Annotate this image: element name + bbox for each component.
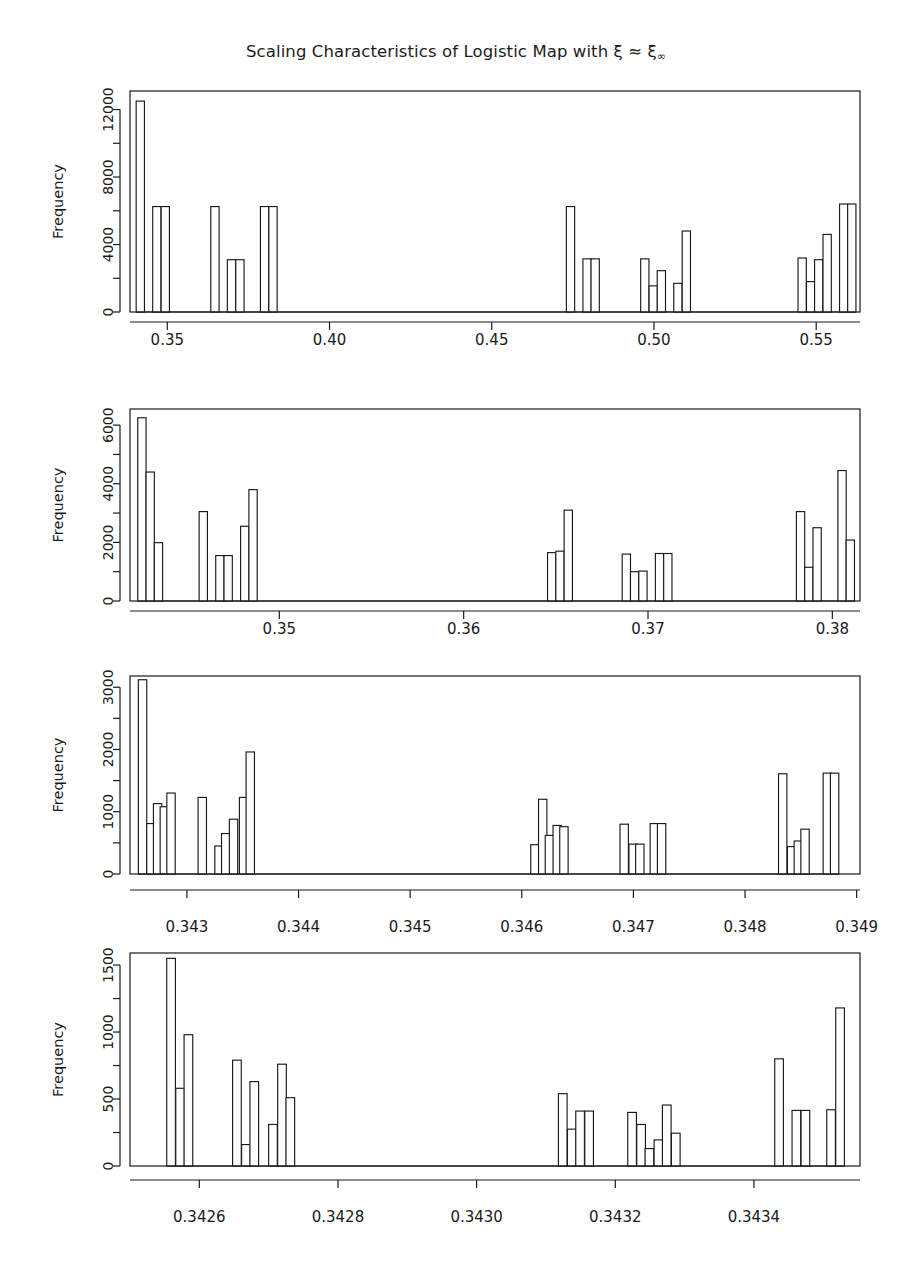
histogram-bar xyxy=(830,773,838,874)
histogram-bar xyxy=(553,825,561,874)
y-axis-tick-label: 12000 xyxy=(100,87,116,132)
panel-plot-svg-3: 01000200030000.3430.3440.3450.3460.3470.… xyxy=(0,0,912,954)
x-axis-tick-label: 0.347 xyxy=(612,918,655,936)
y-axis-tick-label: 0 xyxy=(100,1162,116,1171)
x-axis-tick-label: 0.343 xyxy=(165,918,208,936)
histogram-bar xyxy=(229,819,237,874)
histogram-bar xyxy=(775,1059,784,1166)
y-axis-tick-label: 500 xyxy=(100,1086,116,1113)
histogram-bar xyxy=(641,259,649,312)
histogram-bar xyxy=(260,207,268,312)
histogram-bar xyxy=(840,204,848,312)
histogram-bar xyxy=(239,797,247,874)
histogram-bar xyxy=(657,824,665,874)
x-axis-tick-label: 0.55 xyxy=(799,331,832,349)
panel-plot-svg-2: 02000400060000.350.360.370.38Frequency xyxy=(0,0,912,656)
histogram-bar xyxy=(558,1094,567,1166)
histogram-bar xyxy=(236,260,244,312)
histogram-bar xyxy=(630,572,638,601)
histogram-bar xyxy=(224,556,232,601)
plot-box xyxy=(130,409,860,601)
y-axis-tick-label: 4000 xyxy=(100,227,116,263)
x-axis-tick-label: 0.3432 xyxy=(589,1208,642,1226)
histogram-bar xyxy=(629,844,637,874)
histogram-bar xyxy=(153,207,161,312)
x-axis-tick-label: 0.36 xyxy=(447,620,480,638)
y-axis-tick-label: 1500 xyxy=(100,947,116,983)
x-axis-tick-label: 0.349 xyxy=(835,918,878,936)
y-axis-title: Frequency xyxy=(50,737,66,812)
histogram-bar xyxy=(250,1082,259,1166)
histogram-bar xyxy=(796,512,804,601)
x-axis-tick-label: 0.40 xyxy=(313,331,346,349)
histogram-bars xyxy=(138,680,838,874)
histogram-bar xyxy=(637,1124,646,1166)
histogram-bar xyxy=(620,824,628,874)
histogram-bar xyxy=(241,526,249,601)
histogram-bar xyxy=(227,260,235,312)
histogram-bar xyxy=(556,551,564,601)
histogram-bar xyxy=(249,490,257,601)
y-axis-tick-label: 6000 xyxy=(100,407,116,443)
figure-title-subscript: ∞ xyxy=(657,50,666,63)
histogram-bar xyxy=(154,543,162,601)
histogram-bar xyxy=(650,824,658,874)
histogram-bar xyxy=(198,797,206,874)
histogram-bar xyxy=(645,1149,654,1166)
histogram-bar xyxy=(545,835,553,874)
histogram-bar xyxy=(787,847,795,874)
x-axis-tick-label: 0.345 xyxy=(389,918,432,936)
histogram-bar xyxy=(138,680,146,874)
histogram-bar xyxy=(548,553,556,601)
x-axis-tick-label: 0.3428 xyxy=(312,1208,365,1226)
histogram-bar xyxy=(806,282,814,312)
histogram-bar xyxy=(211,207,219,312)
histogram-bars xyxy=(167,958,845,1166)
histogram-bar xyxy=(222,834,230,874)
histogram-bar xyxy=(242,1145,251,1166)
panel-plot-svg-4: 0500100015000.34260.34280.34300.34320.34… xyxy=(0,0,912,1244)
histogram-bar xyxy=(138,418,146,601)
histogram-bar xyxy=(216,556,224,601)
x-axis-tick-label: 0.3430 xyxy=(450,1208,503,1226)
y-axis-tick-label: 0 xyxy=(100,597,116,606)
histogram-bar xyxy=(136,101,144,312)
y-axis-title: Frequency xyxy=(50,164,66,239)
x-axis-tick-label: 0.50 xyxy=(637,331,670,349)
histogram-bar xyxy=(657,271,665,312)
histogram-bar xyxy=(798,258,806,312)
histogram-bar xyxy=(779,774,787,874)
x-axis-tick-label: 0.35 xyxy=(263,620,296,638)
histogram-bar xyxy=(246,752,254,874)
histogram-bar xyxy=(671,1133,680,1166)
y-axis-tick-label: 1000 xyxy=(100,1014,116,1050)
histogram-bar xyxy=(576,1111,585,1166)
histogram-bar xyxy=(583,259,591,312)
x-axis-tick-label: 0.35 xyxy=(151,331,184,349)
histogram-bar xyxy=(622,554,630,601)
histogram-bar xyxy=(655,554,663,601)
histogram-bar xyxy=(682,231,690,312)
histogram-bar xyxy=(836,1008,845,1166)
histogram-bar xyxy=(146,472,154,601)
histogram-bar xyxy=(167,793,175,874)
histogram-bar xyxy=(278,1064,287,1166)
x-axis-tick-label: 0.38 xyxy=(816,620,849,638)
figure-root: Scaling Characteristics of Logistic Map … xyxy=(0,0,912,1287)
histogram-bar xyxy=(585,1111,594,1166)
histogram-bar xyxy=(531,845,539,874)
histogram-bars xyxy=(136,101,856,312)
histogram-bar xyxy=(184,1035,193,1166)
histogram-bar xyxy=(846,540,854,601)
histogram-bar xyxy=(269,207,277,312)
histogram-bar xyxy=(566,207,574,312)
histogram-bar xyxy=(636,844,644,874)
y-axis-tick-label: 4000 xyxy=(100,466,116,502)
figure-title-text: Scaling Characteristics of Logistic Map … xyxy=(246,42,657,61)
histogram-bar xyxy=(639,571,647,601)
histogram-bar xyxy=(564,510,572,601)
histogram-bar xyxy=(801,829,809,874)
plot-box xyxy=(130,91,860,312)
plot-box xyxy=(130,953,860,1166)
histogram-bar xyxy=(161,207,169,312)
